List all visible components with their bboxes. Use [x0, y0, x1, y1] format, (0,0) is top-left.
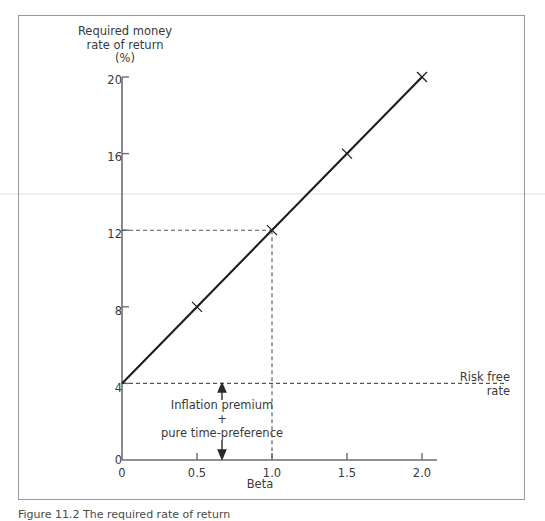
data-point-marker-1.5-16 [342, 149, 352, 159]
data-point-marker-0.5-8 [192, 302, 202, 312]
figure-caption: Figure 11.2 The required rate of return [18, 508, 230, 521]
x-axis-ticks [197, 453, 422, 460]
inflation-premium-arrow [218, 383, 226, 459]
data-point-marker-2.0-20 [417, 72, 427, 82]
axes [122, 77, 437, 460]
